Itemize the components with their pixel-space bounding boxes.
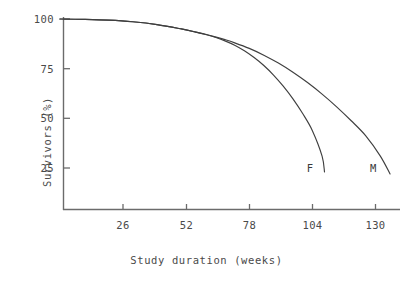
axes-group	[63, 17, 400, 210]
x-tick-marks	[123, 204, 376, 210]
series-label-f: F	[307, 162, 313, 174]
y-axis-title: Survivors (%)	[41, 97, 53, 187]
x-tick-label-78: 78	[243, 219, 256, 231]
series-paths	[60, 19, 390, 174]
series-line-f	[60, 19, 325, 172]
y-tick-marks	[64, 19, 71, 168]
series-label-m: M	[370, 162, 376, 174]
x-tick-label-130: 130	[365, 219, 385, 231]
x-tick-label-52: 52	[180, 219, 193, 231]
y-tick-label-100: 100	[24, 13, 54, 25]
x-axis-title: Study duration (weeks)	[130, 254, 282, 266]
plot-area	[0, 0, 413, 284]
survival-curve-figure: 100 75 50 25 26 52 78 104 130 Study dura…	[0, 0, 413, 284]
series-line-m	[60, 19, 390, 174]
y-tick-label-75: 75	[24, 63, 54, 75]
x-tick-label-26: 26	[116, 219, 129, 231]
x-tick-label-104: 104	[302, 219, 322, 231]
